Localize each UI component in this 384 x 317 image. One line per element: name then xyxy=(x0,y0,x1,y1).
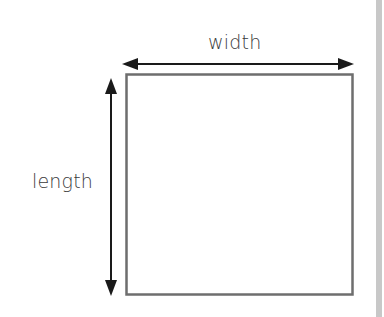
width-label: width xyxy=(208,31,261,53)
rectangle-shape xyxy=(127,75,353,295)
length-label: length xyxy=(32,170,93,192)
width-double-arrow-icon xyxy=(122,58,354,70)
diagram-canvas xyxy=(0,0,384,317)
rectangle-dimension-diagram: width length xyxy=(0,0,384,317)
length-double-arrow-icon xyxy=(105,78,117,296)
side-border-bar xyxy=(376,0,382,317)
